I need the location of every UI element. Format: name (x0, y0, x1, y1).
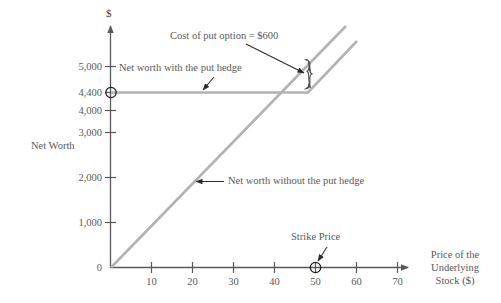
y-tick-label-2000: 2,000 (46, 172, 102, 184)
y-tick-label-3000: 3,000 (46, 127, 102, 139)
net-worth-with-hedge-leader (203, 77, 214, 90)
y-tick-label-4000: 4,000 (46, 105, 102, 117)
x-axis-title: Price of the Underlying Stock ($) (418, 248, 492, 287)
cost-of-put-option-leader (246, 44, 304, 73)
x-axis-title-line-2: Underlying (418, 261, 492, 274)
x-axis-title-line-3: Stock ($) (418, 274, 492, 287)
annotation-cost-of-put-option: Cost of put option = $600 (170, 30, 278, 42)
x-tick-label-10: 10 (136, 276, 167, 288)
x-tick-label-60: 60 (341, 276, 372, 288)
x-axis-title-line-1: Price of the (418, 248, 492, 261)
strike-price-leader (318, 247, 327, 261)
x-tick-label-50: 50 (300, 276, 331, 288)
y-tick-label-5000: 5,000 (46, 61, 102, 73)
annotation-strike-price: Strike Price (291, 231, 340, 243)
annotation-net-worth-without-hedge: Net worth without the put hedge (228, 175, 364, 187)
y-axis-title: Net Worth (31, 140, 75, 152)
x-tick-label-40: 40 (259, 276, 290, 288)
y-tick-label-1000: 1,000 (46, 217, 102, 229)
annotation-net-worth-with-hedge: Net worth with the put hedge (119, 62, 242, 74)
x-tick-label-30: 30 (218, 276, 249, 288)
x-tick-label-70: 70 (382, 276, 413, 288)
x-tick-label-20: 20 (177, 276, 208, 288)
y-axis-unit-symbol: $ (106, 7, 112, 19)
y-tick-label-4400: 4,400 (46, 87, 102, 99)
y-tick-label-0: 0 (46, 262, 102, 274)
put-hedge-payoff-chart: $ Net Worth 5,000 4,400 4,000 3,000 2,00… (0, 0, 501, 303)
